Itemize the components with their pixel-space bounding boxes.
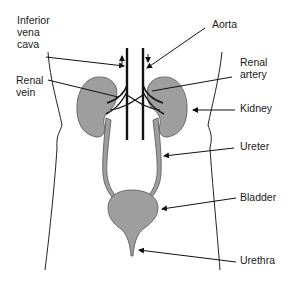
- body-outline-right: [208, 52, 222, 270]
- label-ureter: Ureter: [240, 140, 269, 152]
- leader-urethra: [139, 250, 236, 262]
- label-bladder: Bladder: [240, 191, 276, 203]
- leader-bladder: [162, 198, 236, 209]
- label-aorta: Aorta: [212, 18, 237, 30]
- bladder: [108, 190, 158, 256]
- urinary-system-diagram: Inferior vena cava Aorta Renal vein Rena…: [0, 0, 297, 283]
- label-kidney: Kidney: [240, 102, 272, 114]
- right-ureter: [149, 118, 161, 197]
- label-renal-artery: Renal artery: [240, 56, 267, 80]
- left-ureter: [103, 118, 115, 197]
- leader-inferior-vena-cava: [46, 57, 124, 66]
- leader-aorta: [147, 28, 205, 68]
- label-renal-vein: Renal vein: [16, 74, 43, 98]
- label-urethra: Urethra: [240, 254, 275, 266]
- label-inferior-vena-cava: Inferior vena cava: [17, 14, 50, 50]
- body-outline-left: [45, 52, 62, 270]
- leader-ureter: [164, 148, 234, 156]
- left-kidney: [77, 77, 117, 137]
